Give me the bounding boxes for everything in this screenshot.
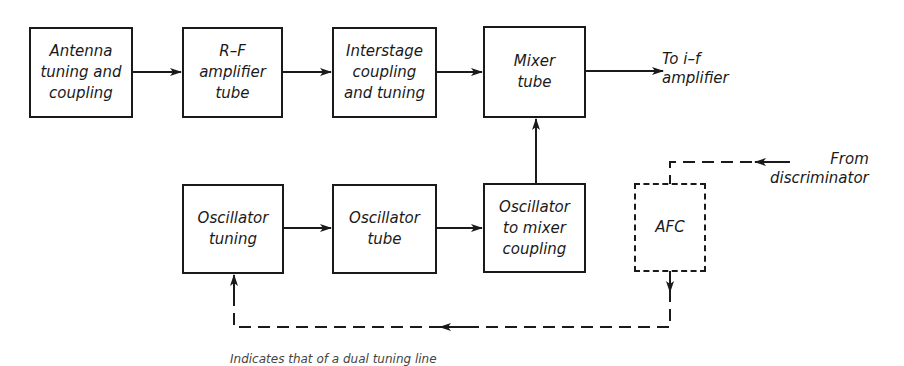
block-interstage-coupling: Interstage coupling and tuning [332,27,437,118]
block-rf-amp-label: R–F amplifier tube [199,41,266,104]
block-mixer-label: Mixer tube [514,51,555,93]
block-afc: AFC [634,183,706,272]
block-mixer-tube: Mixer tube [483,26,586,118]
block-interstage-label: Interstage coupling and tuning [344,41,425,104]
block-osc-tuning-label: Oscillator tuning [198,208,269,250]
footnote-text: Indicates that of a dual tuning line [230,352,437,366]
dashed-line-afc-loop [234,271,670,327]
block-osc-coupling-label: Oscillator to mixer coupling [499,197,570,260]
block-antenna-label: Antenna tuning and coupling [40,41,121,104]
block-antenna-tuning: Antenna tuning and coupling [29,27,133,118]
block-oscillator-mixer-coupling: Oscillator to mixer coupling [483,183,586,273]
block-osc-tube-label: Oscillator tube [349,208,420,250]
label-from-discriminator: From discriminator [770,150,869,188]
label-to-if-amplifier: To i–f amplifier [662,50,729,88]
block-oscillator-tube: Oscillator tube [332,184,437,274]
block-afc-label: AFC [655,217,684,238]
block-oscillator-tuning: Oscillator tuning [182,184,284,274]
block-rf-amplifier: R–F amplifier tube [182,27,283,118]
